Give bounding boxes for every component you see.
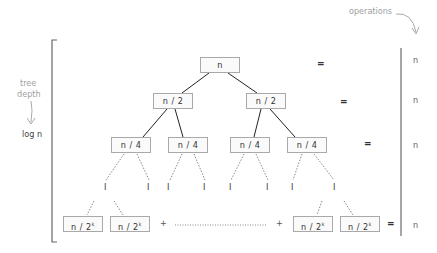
operations-value: n	[413, 220, 418, 230]
leaf-marker: I	[291, 182, 293, 192]
leaf-marker: I	[203, 182, 205, 192]
node-n: n	[200, 57, 240, 73]
equals-sign: =	[317, 58, 325, 69]
leaf-node-2: n / 2k	[110, 216, 150, 232]
tree-depth-label-1: tree	[20, 78, 36, 88]
equals-sign: =	[340, 96, 348, 107]
operations-label: operations	[349, 6, 392, 16]
leaf-marker: I	[333, 182, 335, 192]
equals-sign: =	[387, 218, 395, 229]
node-n-half-right: n / 2	[246, 93, 286, 109]
operations-value: n	[413, 140, 418, 150]
leaf-node-1: n / 2k	[63, 216, 103, 232]
leaf-marker: I	[266, 182, 268, 192]
node-n-quarter-2: n / 4	[168, 137, 208, 153]
operations-value: n	[413, 55, 418, 65]
plus-sign: +	[160, 218, 167, 228]
equals-sign: =	[364, 138, 372, 149]
leaf-marker: I	[229, 182, 231, 192]
operations-value: n	[413, 95, 418, 105]
leaf-marker: I	[167, 182, 169, 192]
leaf-node-3: n / 2k	[293, 216, 333, 232]
tree-depth-label-2: depth	[17, 89, 41, 99]
log-n-label: log n	[22, 129, 42, 139]
node-n-quarter-4: n / 4	[287, 137, 327, 153]
node-n-quarter-1: n / 4	[111, 137, 151, 153]
recursion-tree-diagram: operations tree depth log n n n / 2 n / …	[0, 0, 437, 253]
plus-sign: +	[276, 218, 283, 228]
node-n-quarter-3: n / 4	[230, 137, 270, 153]
node-n-half-left: n / 2	[153, 93, 193, 109]
leaf-node-4: n / 2k	[340, 216, 380, 232]
leaf-marker: I	[104, 182, 106, 192]
leaf-marker: I	[147, 182, 149, 192]
